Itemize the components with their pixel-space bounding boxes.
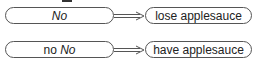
- double-arrow-icon: [114, 11, 145, 21]
- double-arrow-icon: [114, 45, 145, 55]
- condition-italic-text: No: [60, 43, 75, 57]
- cropped-text-fragment: [62, 0, 72, 2]
- outcome-box-2: have applesauce: [145, 41, 252, 58]
- condition-box-1: No: [5, 7, 114, 24]
- outcome-text: have applesauce: [153, 43, 244, 57]
- condition-box-2: no No: [5, 41, 114, 58]
- outcome-text: lose applesauce: [155, 9, 242, 23]
- condition-plain-text: no: [43, 43, 60, 57]
- condition-italic-text: No: [52, 9, 67, 23]
- outcome-box-1: lose applesauce: [145, 7, 252, 24]
